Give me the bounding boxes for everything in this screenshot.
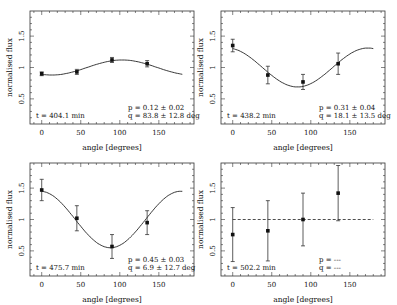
q-annotation: q = 18.1 ± 13.5 deg [319, 112, 391, 120]
x-axis-label: angle [degrees] [82, 295, 142, 304]
y-tick-label: 1.5 [18, 183, 26, 194]
x-axis-label: angle [degrees] [273, 143, 333, 152]
data-point [266, 201, 270, 261]
time-annotation: t = 404.1 min [36, 112, 85, 120]
x-tick-label: 0 [230, 281, 234, 289]
y-tick-label: 1.5 [18, 31, 26, 42]
data-point [266, 66, 270, 84]
y-tick-label: 0.5 [209, 93, 217, 104]
data-point [110, 235, 114, 259]
y-tick-label: 1 [18, 65, 26, 69]
q-annotation: q = --- [319, 264, 342, 272]
time-annotation: t = 475.7 min [36, 264, 85, 272]
data-point [40, 72, 44, 76]
x-axis-label: angle [degrees] [273, 295, 333, 304]
x-axis-label: angle [degrees] [82, 143, 142, 152]
y-tick-label: 1.5 [209, 31, 217, 42]
data-point [336, 166, 340, 221]
data-point [336, 53, 340, 74]
x-tick-label: 0 [39, 129, 43, 137]
y-axis-label: normalised flux [5, 37, 14, 97]
x-tick-label: 100 [113, 129, 126, 137]
panel-top-right: 0501001500.511.5angle [degrees]normalise… [191, 0, 389, 152]
y-tick-label: 1.5 [209, 183, 217, 194]
data-point [40, 179, 44, 200]
data-point [231, 39, 235, 52]
x-tick-label: 50 [267, 129, 276, 137]
x-tick-label: 0 [39, 281, 43, 289]
p-annotation: p = 0.45 ± 0.03 [128, 256, 184, 264]
y-tick-label: 0.5 [18, 93, 26, 104]
time-annotation: t = 438.2 min [227, 112, 276, 120]
data-point [110, 57, 114, 62]
x-tick-label: 50 [76, 281, 85, 289]
data-point [231, 208, 235, 262]
x-tick-label: 0 [230, 129, 234, 137]
data-point [301, 193, 305, 246]
panel-bottom-right: 0501001500.511.5angle [degrees]normalise… [191, 152, 389, 304]
p-annotation: p = 0.31 ± 0.04 [319, 104, 376, 112]
data-point [75, 69, 79, 74]
x-tick-label: 50 [267, 281, 276, 289]
data-point [145, 61, 149, 67]
p-annotation: p = 0.12 ± 0.02 [128, 104, 184, 112]
y-tick-label: 0.5 [18, 245, 26, 256]
x-tick-label: 100 [304, 129, 317, 137]
y-tick-label: 1 [209, 65, 217, 69]
p-annotation: p = --- [319, 256, 342, 264]
y-tick-label: 1 [18, 217, 26, 221]
y-axis-label: normalised flux [196, 37, 205, 97]
panel-bottom-left: 0501001500.511.5angle [degrees]normalise… [0, 152, 198, 304]
panel-top-left: 0501001500.511.5angle [degrees]normalise… [0, 0, 198, 152]
x-tick-label: 100 [304, 281, 317, 289]
x-tick-label: 150 [152, 281, 165, 289]
x-tick-label: 150 [343, 129, 356, 137]
y-tick-label: 1 [209, 217, 217, 221]
time-annotation: t = 502.2 min [227, 264, 276, 272]
x-tick-label: 100 [113, 281, 126, 289]
data-point [301, 74, 305, 89]
y-axis-label: normalised flux [196, 189, 205, 249]
q-annotation: q = 83.8 ± 12.8 deg [128, 112, 200, 120]
y-axis-label: normalised flux [5, 189, 14, 249]
data-point [145, 211, 149, 235]
x-tick-label: 50 [76, 129, 85, 137]
data-point [75, 206, 79, 231]
q-annotation: q = 6.9 ± 12.7 deg [128, 264, 196, 272]
y-tick-label: 0.5 [209, 245, 217, 256]
x-tick-label: 150 [152, 129, 165, 137]
x-tick-label: 150 [343, 281, 356, 289]
